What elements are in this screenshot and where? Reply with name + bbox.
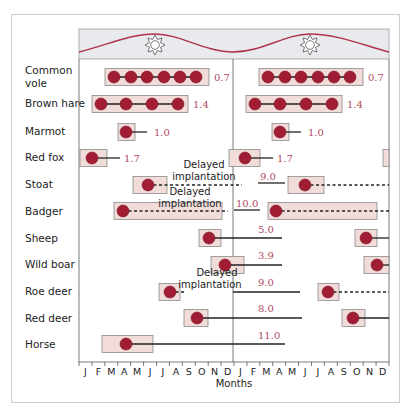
month-tick-label: S xyxy=(341,366,347,377)
month-tick-label: N xyxy=(366,366,373,377)
x-axis-ticks: JFMAMJJASONDJFMAMJJASOND xyxy=(79,362,389,377)
birth-dot xyxy=(371,259,383,271)
birth-dot xyxy=(312,71,324,83)
birth-dot xyxy=(279,71,291,83)
month-tick-label: A xyxy=(328,366,335,377)
gestation-value: 9.0 xyxy=(260,171,276,182)
svg-text:Marmot: Marmot xyxy=(25,125,65,137)
row-wild-boar: 3.9 xyxy=(211,250,389,274)
annotations: Delayed implantation Delayed implantatio… xyxy=(158,159,241,290)
species-labels: Common vole Brown hare Marmot Red fox St… xyxy=(25,64,85,350)
birth-dot xyxy=(300,98,312,110)
svg-text:Badger: Badger xyxy=(25,205,63,217)
svg-text:Wild boar: Wild boar xyxy=(25,258,76,270)
svg-text:Red fox: Red fox xyxy=(25,151,64,163)
birth-dot xyxy=(141,71,153,83)
birth-dot xyxy=(117,205,129,217)
row-brown-hare: 1.41.4 xyxy=(92,96,363,113)
month-tick-label: M xyxy=(133,366,141,377)
gestation-value: 10.0 xyxy=(236,198,258,209)
birth-dot xyxy=(158,71,170,83)
birth-dot xyxy=(190,71,202,83)
row-horse: 11.0 xyxy=(102,330,285,353)
gestation-value: 1.7 xyxy=(124,153,140,164)
chart-svg: Common vole Brown hare Marmot Red fox St… xyxy=(0,0,404,411)
note-roe-line1: Delayed xyxy=(196,267,237,278)
month-tick-label: J xyxy=(148,366,152,377)
row-common-vole: 0.70.7 xyxy=(105,69,384,86)
birth-dot xyxy=(120,98,132,110)
birth-dot xyxy=(164,286,176,298)
note-stoat-line2: implantation xyxy=(172,171,235,182)
x-axis-label: Months xyxy=(216,378,253,389)
svg-text:Brown hare: Brown hare xyxy=(25,97,85,109)
month-tick-label: J xyxy=(316,366,320,377)
month-tick-label: O xyxy=(353,366,360,377)
birth-dot xyxy=(274,98,286,110)
birth-dot xyxy=(142,179,154,191)
gestation-value: 8.0 xyxy=(258,303,274,314)
birth-dot xyxy=(299,179,311,191)
birth-dot xyxy=(239,152,251,164)
gestation-value: 0.7 xyxy=(368,72,384,83)
gestation-value: 11.0 xyxy=(258,330,280,341)
birth-dot xyxy=(344,71,356,83)
birth-dot xyxy=(125,71,137,83)
month-tick-label: D xyxy=(379,366,386,377)
month-tick-label: S xyxy=(186,366,192,377)
month-tick-label: A xyxy=(121,366,128,377)
birth-dot xyxy=(108,71,120,83)
month-tick-label: J xyxy=(161,366,165,377)
month-tick-label: M xyxy=(288,366,296,377)
note-badger-line1: Delayed xyxy=(169,186,210,197)
birth-dot xyxy=(191,312,203,324)
svg-text:Common: Common xyxy=(25,64,72,76)
month-tick-label: F xyxy=(251,366,256,377)
birth-dot xyxy=(86,152,98,164)
svg-text:Roe deer: Roe deer xyxy=(25,285,73,297)
gestation-value: 0.7 xyxy=(214,72,230,83)
gestation-value: 1.7 xyxy=(277,153,293,164)
gestation-value: 1.0 xyxy=(154,127,170,138)
month-tick-label: A xyxy=(173,366,180,377)
birth-dot xyxy=(295,71,307,83)
month-tick-label: F xyxy=(96,366,101,377)
note-badger-line2: implantation xyxy=(158,198,221,209)
birth-dot xyxy=(203,232,215,244)
birth-dot xyxy=(95,98,107,110)
row-marmot: 1.01.0 xyxy=(118,124,324,141)
svg-text:Horse: Horse xyxy=(25,338,56,350)
birth-dot xyxy=(274,126,286,138)
gestation-value: 1.4 xyxy=(347,99,363,110)
month-tick-label: J xyxy=(303,366,307,377)
note-roe-line2: implantation xyxy=(178,279,241,290)
birth-dot xyxy=(328,71,340,83)
month-tick-label: M xyxy=(107,366,115,377)
timeline-rows: 0.70.71.41.41.01.01.71.79.010.05.03.99.0… xyxy=(80,69,389,353)
gestation-value: 1.4 xyxy=(193,99,209,110)
gestation-value: 9.0 xyxy=(258,277,274,288)
svg-text:Red deer: Red deer xyxy=(25,312,73,324)
gestation-value: 5.0 xyxy=(258,224,274,235)
month-tick-label: N xyxy=(211,366,218,377)
month-tick-label: M xyxy=(262,366,270,377)
row-sheep: 5.0 xyxy=(199,224,389,247)
birth-dot xyxy=(322,286,334,298)
birth-dot xyxy=(120,338,132,350)
gestation-value: 3.9 xyxy=(258,250,274,261)
sun-icon xyxy=(145,35,165,55)
note-stoat-line1: Delayed xyxy=(183,159,224,170)
month-tick-label: O xyxy=(198,366,205,377)
row-red-fox: 1.71.7 xyxy=(80,150,389,167)
birth-dot xyxy=(270,205,282,217)
row-red-deer: 8.0 xyxy=(184,303,389,327)
birth-dot xyxy=(249,98,261,110)
svg-text:Sheep: Sheep xyxy=(25,232,58,244)
birth-dot xyxy=(347,312,359,324)
row-badger: 10.0 xyxy=(114,198,389,220)
month-tick-label: J xyxy=(83,366,87,377)
birth-dot xyxy=(360,232,372,244)
birth-dot xyxy=(326,98,338,110)
birth-dot xyxy=(120,126,132,138)
svg-text:vole: vole xyxy=(25,77,47,89)
